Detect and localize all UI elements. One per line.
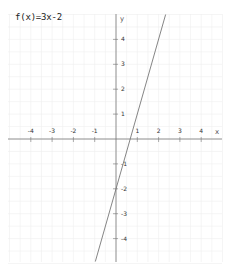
- y-tick-label: -2: [121, 185, 127, 192]
- x-tick-label: -1: [92, 127, 98, 134]
- x-tick-label: 1: [135, 127, 139, 134]
- y-axis-label: y: [120, 15, 124, 23]
- x-tick-label: -2: [70, 127, 76, 134]
- x-tick-label: -3: [49, 127, 55, 134]
- x-tick-label: -4: [28, 127, 34, 134]
- chart-title: f(x)=3x-2: [15, 12, 62, 22]
- x-tick-label: 2: [157, 127, 161, 134]
- y-tick-label: 1: [121, 110, 125, 117]
- y-tick-label: -3: [121, 210, 127, 217]
- x-tick-label: 3: [178, 127, 182, 134]
- x-tick-label: 4: [199, 127, 203, 134]
- function-graph: -4-3-2-112344321-1-2-3-4xy: [0, 0, 229, 272]
- x-axis-label: x: [215, 128, 219, 136]
- y-tick-label: 4: [121, 35, 125, 42]
- y-tick-label: 2: [121, 85, 125, 92]
- y-tick-label: -4: [121, 235, 127, 242]
- y-tick-label: 3: [121, 60, 125, 67]
